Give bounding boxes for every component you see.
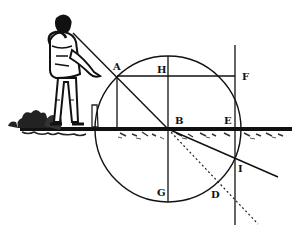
label-G: G bbox=[157, 187, 166, 198]
label-F: F bbox=[242, 71, 249, 82]
label-E: E bbox=[224, 115, 232, 126]
refracted-ray bbox=[168, 129, 278, 177]
label-A: A bbox=[112, 61, 121, 72]
label-H: H bbox=[157, 64, 166, 75]
refraction-diagram: A H F B E I G D bbox=[0, 0, 304, 237]
incident-ray bbox=[73, 33, 168, 129]
ground-surface bbox=[20, 127, 292, 139]
dotted-continuation bbox=[168, 129, 258, 224]
observer-figure bbox=[49, 14, 100, 127]
label-D: D bbox=[211, 189, 220, 200]
label-I: I bbox=[238, 163, 243, 174]
label-B: B bbox=[175, 115, 183, 126]
